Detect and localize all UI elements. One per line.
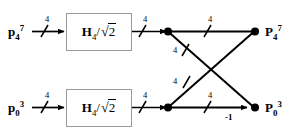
output-top-superscript: 7 (277, 23, 281, 33)
input-top-superscript: 7 (20, 23, 24, 33)
transform-block-bottom-label: H4/√2 (82, 101, 116, 115)
input-bottom-subscript: 0 (15, 108, 19, 118)
transform-block-top[interactable]: H4/√2 (66, 13, 132, 51)
bus-width-cross-bottom: 4 (208, 91, 212, 100)
bus-width-cross-top: 4 (208, 15, 212, 24)
radical-operand-top: 2 (108, 23, 117, 39)
bus-slash-diag-lower (183, 76, 190, 88)
output-bottom-superscript: 3 (277, 99, 281, 109)
node-bottom-right (251, 104, 259, 112)
operator-symbol-bottom: H (82, 100, 92, 115)
node-top-right (251, 28, 259, 36)
bus-width-input-top: 4 (45, 15, 49, 24)
output-top-subscript: 4 (273, 32, 277, 42)
radical-top: √2 (100, 25, 116, 39)
gain-label-bottom-branch: -1 (225, 113, 233, 122)
bus-width-diag-upper: 4 (173, 46, 177, 55)
input-top-subscript: 4 (15, 32, 19, 42)
input-bottom-superscript: 3 (20, 99, 24, 109)
transform-block-top-label: H4/√2 (82, 25, 116, 39)
bus-width-block-out-top: 4 (143, 15, 147, 24)
radical-bottom: √2 (100, 101, 116, 115)
node-top-left (164, 28, 172, 36)
butterfly-diagram: H4/√2 H4/√2 p47 p03 P47 P03 4 4 4 4 4 4 … (0, 0, 293, 134)
operator-symbol-top: H (82, 24, 92, 39)
output-bottom-subscript: 0 (273, 108, 277, 118)
input-label-top: p47 (8, 25, 24, 38)
bus-width-diag-lower: 4 (173, 77, 177, 86)
transform-block-bottom[interactable]: H4/√2 (66, 89, 132, 127)
radical-operand-bottom: 2 (108, 99, 117, 115)
input-label-bottom: p03 (8, 101, 24, 114)
output-label-top: P47 (265, 25, 282, 38)
output-label-bottom: P03 (265, 101, 282, 114)
output-bottom-symbol: P (265, 100, 273, 115)
bus-width-block-out-bottom: 4 (143, 91, 147, 100)
node-bottom-left (164, 104, 172, 112)
bus-width-input-bottom: 4 (45, 91, 49, 100)
output-top-symbol: P (265, 24, 273, 39)
